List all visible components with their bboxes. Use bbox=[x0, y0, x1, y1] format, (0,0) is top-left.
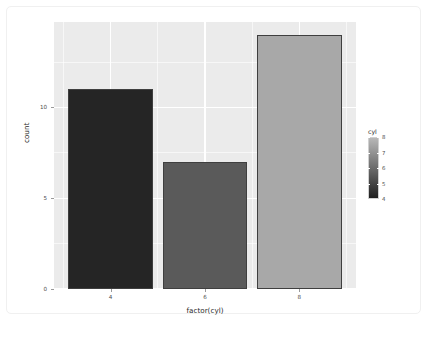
gridline-minor-vertical bbox=[63, 22, 64, 289]
legend-tick-mark bbox=[377, 168, 379, 169]
bar-8 bbox=[257, 35, 342, 289]
legend-tick-label: 8 bbox=[382, 134, 385, 140]
y-tick-mark bbox=[51, 198, 54, 199]
y-tick-mark bbox=[51, 289, 54, 290]
bar-6 bbox=[163, 162, 248, 289]
legend-tick-label: 4 bbox=[382, 196, 385, 202]
bar-4 bbox=[68, 89, 153, 289]
legend-tick-label: 7 bbox=[382, 150, 385, 156]
x-tick-mark bbox=[111, 289, 112, 292]
x-tick-mark bbox=[299, 289, 300, 292]
y-tick-label: 5 bbox=[25, 195, 47, 201]
y-tick-label: 0 bbox=[25, 286, 47, 292]
legend-tick-mark bbox=[368, 184, 370, 185]
y-tick-mark bbox=[51, 107, 54, 108]
x-axis-title: factor(cyl) bbox=[54, 306, 356, 315]
legend-tick-mark bbox=[377, 184, 379, 185]
x-tick-mark bbox=[205, 289, 206, 292]
legend: cyl 87654 bbox=[366, 128, 406, 204]
x-tick-label: 4 bbox=[96, 294, 126, 300]
legend-tick-mark bbox=[368, 137, 370, 138]
gridline-minor-vertical bbox=[252, 22, 253, 289]
legend-title: cyl bbox=[368, 128, 377, 135]
gridline-minor-vertical bbox=[346, 22, 347, 289]
y-axis-title: count bbox=[22, 123, 31, 143]
legend-tick-mark bbox=[377, 153, 379, 154]
legend-tick-mark bbox=[368, 153, 370, 154]
legend-tick-mark bbox=[368, 168, 370, 169]
x-tick-label: 6 bbox=[190, 294, 220, 300]
legend-tick-label: 6 bbox=[382, 165, 385, 171]
legend-tick-label: 5 bbox=[382, 181, 385, 187]
legend-tick-mark bbox=[377, 199, 379, 200]
ggplot-chart: 0510 468 factor(cyl) count cyl 87654 bbox=[0, 0, 427, 340]
plot-panel bbox=[54, 22, 356, 289]
x-tick-label: 8 bbox=[284, 294, 314, 300]
y-tick-label: 10 bbox=[25, 104, 47, 110]
legend-tick-mark bbox=[377, 137, 379, 138]
legend-tick-mark bbox=[368, 199, 370, 200]
gridline-minor-vertical bbox=[157, 22, 158, 289]
